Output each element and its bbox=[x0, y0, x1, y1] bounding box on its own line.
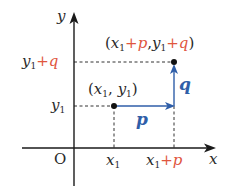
vector-p-label: p bbox=[136, 111, 148, 128]
y-axis-label: y bbox=[57, 9, 65, 24]
point-end bbox=[171, 59, 177, 65]
point-start bbox=[111, 103, 117, 109]
dashed-guides bbox=[74, 62, 174, 148]
point-end-label: (x1+p,y1+q) bbox=[105, 36, 194, 53]
x-tick-x1: x1 bbox=[106, 153, 120, 170]
point-start-label: (x1, y1) bbox=[88, 82, 138, 99]
y-tick-y1: y1 bbox=[51, 98, 65, 115]
vector-q-label: q bbox=[179, 76, 191, 93]
origin-label: O bbox=[54, 152, 66, 167]
x-axis-label: x bbox=[209, 152, 217, 167]
vector-translation-diagram: y x O y1+q y1 x1 x1+p (x1, y1) (x1+p,y1+… bbox=[0, 0, 242, 191]
y-tick-y1-plus-q: y1+q bbox=[22, 54, 58, 71]
x-tick-x1-plus-p: x1+p bbox=[146, 153, 182, 170]
